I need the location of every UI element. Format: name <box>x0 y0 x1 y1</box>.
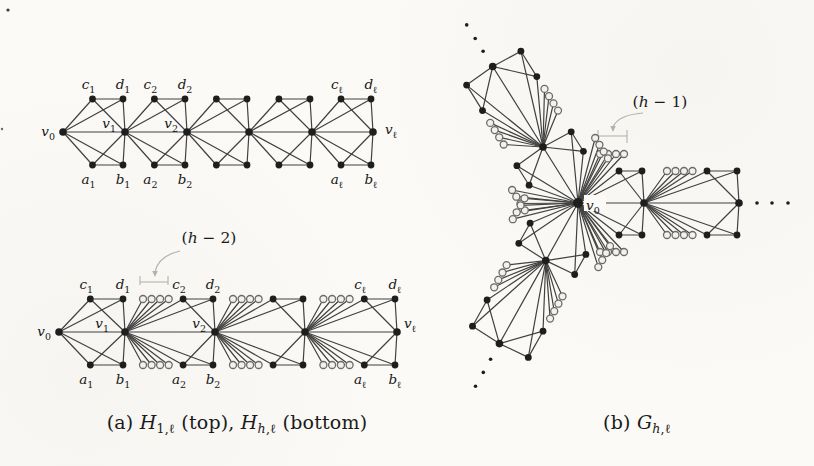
vertex <box>515 240 522 247</box>
vertex-label: a1 <box>81 171 95 190</box>
gray-vertex <box>320 296 327 303</box>
gray-vertex <box>517 202 524 209</box>
vertex-label: b2 <box>206 371 221 390</box>
gray-vertex <box>621 151 628 158</box>
vertex <box>270 296 277 303</box>
vertex <box>276 96 283 103</box>
ellipsis-dot <box>481 49 485 53</box>
gray-vertex <box>555 107 562 114</box>
label-subscript: 0 <box>49 131 55 142</box>
edge <box>499 344 528 358</box>
gray-vertex <box>599 257 606 264</box>
gray-vertex <box>503 262 510 269</box>
math-text-part: (top), <box>175 411 241 433</box>
edge <box>63 132 93 165</box>
edge <box>187 132 216 165</box>
label-subscript: 1 <box>110 123 116 134</box>
arrowhead-icon <box>152 271 158 277</box>
vertex <box>120 296 127 303</box>
gray-vertex <box>547 315 554 322</box>
edge <box>123 299 125 332</box>
edge <box>59 332 123 365</box>
edge <box>341 132 373 165</box>
gray-vertex <box>346 296 353 303</box>
vertex <box>639 232 646 239</box>
figure-canvas: c1d1a1b1c2d2a2b2cℓdℓaℓbℓv0v1v2vℓc1d1a1b1… <box>0 0 814 466</box>
gray-vertex <box>546 93 553 100</box>
vertex <box>307 162 314 169</box>
edge <box>310 99 312 132</box>
caption-subfigure-a: (a) H1,ℓ (top), Hh,ℓ (bottom) <box>107 411 368 437</box>
gray-vertex <box>509 187 516 194</box>
vertex <box>368 162 375 169</box>
edge <box>249 132 279 165</box>
edge <box>187 99 247 132</box>
vertex <box>89 96 96 103</box>
gray-vertex <box>495 276 502 283</box>
edge <box>546 254 586 260</box>
gray-vertex <box>496 134 503 141</box>
edge <box>249 132 310 165</box>
vertex <box>300 362 307 369</box>
annotation-h-minus-1: (h − 1) <box>633 93 688 111</box>
edge <box>123 332 125 365</box>
gray-vertex <box>513 209 520 216</box>
graph-nodes <box>1 8 790 388</box>
ellipsis-dot <box>770 201 774 205</box>
vertex <box>369 128 377 136</box>
gray-vertex <box>247 362 254 369</box>
vertex <box>120 362 127 369</box>
arrowhead-icon <box>610 126 616 132</box>
vertex <box>583 251 590 258</box>
gray-vertex <box>604 155 611 162</box>
label-main: b <box>388 371 397 387</box>
vertex <box>568 128 575 135</box>
vertex <box>210 362 217 369</box>
label-main: d <box>206 276 215 292</box>
gray-vertex <box>681 168 688 175</box>
vertex-label: b1 <box>116 371 131 390</box>
math-text-part: (b) <box>603 411 637 433</box>
edge <box>63 132 123 165</box>
spine-vertex-label: v2 <box>164 115 178 134</box>
vertex <box>704 232 711 239</box>
edge <box>187 132 247 165</box>
math-text-part: (bottom) <box>276 411 367 433</box>
edge <box>467 85 543 147</box>
gray-vertex <box>541 85 548 92</box>
vertex <box>392 362 399 369</box>
vertex <box>301 328 309 336</box>
vertex <box>120 96 127 103</box>
label-subscript: 2 <box>214 284 220 295</box>
vertex-label: dℓ <box>364 76 377 95</box>
edge <box>279 132 312 165</box>
vertex <box>213 162 220 169</box>
gray-vertex <box>329 362 336 369</box>
vertex <box>121 328 129 336</box>
ellipsis-dot <box>482 371 486 375</box>
label-subscript: ℓ <box>362 284 367 295</box>
edge <box>216 99 249 132</box>
vertex <box>244 96 251 103</box>
edge <box>247 99 249 132</box>
vertex-label: cℓ <box>331 76 343 95</box>
gray-vertex <box>603 250 610 257</box>
edge <box>90 332 125 365</box>
ellipsis-dot <box>755 201 759 205</box>
gray-vertex <box>689 168 696 175</box>
spine-vertex-label: vℓ <box>385 121 397 140</box>
vertex <box>469 323 476 330</box>
vertex <box>121 128 129 136</box>
spine-vertex-label: v1 <box>95 315 109 334</box>
label-subscript: 1 <box>89 84 95 95</box>
edge <box>571 132 578 203</box>
gray-vertex <box>689 232 696 239</box>
edge <box>213 332 215 365</box>
edge <box>213 299 215 332</box>
ellipsis-dot <box>465 23 469 27</box>
label-subscript: ℓ <box>339 179 344 190</box>
edge <box>493 67 537 77</box>
gray-vertex <box>621 249 628 256</box>
vertex <box>59 128 67 136</box>
gray-vertex <box>596 141 603 148</box>
